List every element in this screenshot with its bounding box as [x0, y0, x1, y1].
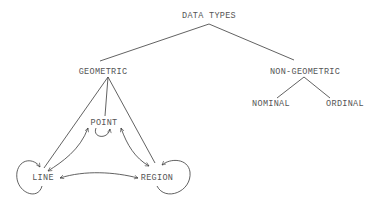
transition-arrows — [17, 128, 190, 194]
node-ordinal: ORDINAL — [326, 99, 364, 109]
node-point: POINT — [90, 118, 117, 128]
edge-root-geometric — [100, 24, 209, 61]
point-self-loop-arrow — [95, 128, 110, 136]
node-region: REGION — [141, 173, 173, 183]
line-region-arrow — [60, 173, 138, 178]
edge-root-nongeometric — [209, 24, 294, 60]
edge-nongeometric-nominal — [277, 77, 304, 98]
node-nominal: NOMINAL — [252, 99, 290, 109]
data-types-diagram: DATA TYPES GEOMETRIC NON-GEOMETRIC NOMIN… — [0, 0, 375, 209]
node-geometric: GEOMETRIC — [79, 67, 128, 77]
edge-geometric-point — [105, 77, 108, 116]
node-non-geometric: NON-GEOMETRIC — [270, 67, 340, 77]
edge-nongeometric-ordinal — [304, 77, 330, 98]
node-data-types: DATA TYPES — [182, 11, 236, 21]
tree-edges — [44, 24, 330, 168]
node-line: LINE — [32, 173, 54, 183]
point-region-arrow — [121, 128, 149, 166]
